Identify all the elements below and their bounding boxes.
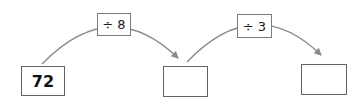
start-value-box: 72 <box>21 66 65 96</box>
operation-1-text: ÷ 8 <box>102 17 125 32</box>
answer-box-2[interactable] <box>301 64 347 95</box>
operation-2-text: ÷ 3 <box>243 19 266 34</box>
start-value-label: 72 <box>32 72 54 91</box>
division-arrow-diagram: 72 ÷ 8 ÷ 3 <box>0 0 364 106</box>
answer-box-1[interactable] <box>163 66 208 97</box>
operation-label-divide-8: ÷ 8 <box>97 13 131 36</box>
operation-label-divide-3: ÷ 3 <box>237 14 272 38</box>
